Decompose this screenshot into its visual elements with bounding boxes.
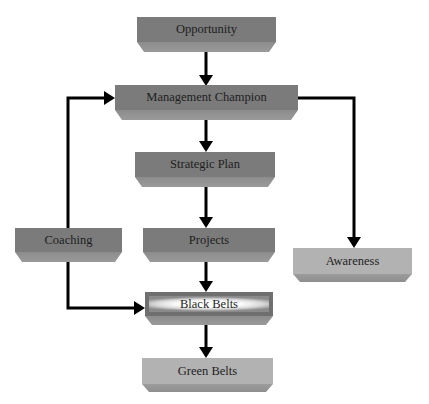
node-label: Awareness (293, 248, 412, 274)
node-opportunity: Opportunity (137, 17, 276, 52)
node-bevel (15, 252, 122, 262)
node-label: Management Champion (115, 85, 298, 110)
arrow-opportunity-to-management (199, 52, 213, 86)
node-label: Coaching (15, 228, 122, 252)
node-bevel (115, 110, 298, 120)
arrow-black-belts-to-green-belts (199, 325, 213, 358)
connector-layer (0, 0, 429, 404)
node-label: Green Belts (142, 358, 273, 384)
node-green-belts: Green Belts (142, 358, 273, 392)
node-bevel (135, 177, 275, 187)
arrow-coaching-to-management (68, 91, 115, 228)
node-strategic-plan: Strategic Plan (135, 152, 275, 187)
node-label: Strategic Plan (135, 152, 275, 177)
node-black-belts: Black Belts (145, 292, 273, 325)
arrow-projects-to-black-belts (199, 262, 213, 292)
node-management-champion: Management Champion (115, 85, 298, 120)
node-bevel (143, 252, 275, 262)
node-coaching: Coaching (15, 228, 122, 262)
node-projects: Projects (143, 228, 275, 262)
node-bevel (145, 316, 273, 325)
node-label: Projects (143, 228, 275, 252)
node-bevel (293, 274, 412, 282)
node-label: Opportunity (137, 17, 276, 42)
arrow-strategic-plan-to-projects (199, 187, 213, 228)
arrow-management-to-awareness (298, 98, 361, 248)
arrow-management-to-strategic-plan (199, 120, 213, 152)
node-label: Black Belts (145, 292, 273, 316)
arrow-coaching-to-black-belts (68, 262, 145, 315)
node-awareness: Awareness (293, 248, 412, 282)
node-bevel (137, 42, 276, 52)
node-bevel (142, 384, 273, 392)
